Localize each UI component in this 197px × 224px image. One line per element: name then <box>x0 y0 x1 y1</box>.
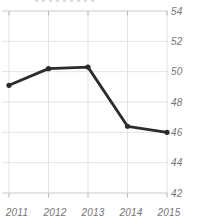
data-point <box>164 130 169 135</box>
x-tick-label: 2011 <box>5 207 28 218</box>
x-tick-label: 2013 <box>80 207 104 218</box>
x-tick-label: 2012 <box>42 207 66 218</box>
y-tick-label: 52 <box>171 36 183 47</box>
x-tick-label: 2014 <box>118 207 142 218</box>
data-point <box>125 124 130 129</box>
y-tick-label: 54 <box>171 6 183 17</box>
chart-panel: 5452504846444220112012201320142015 <box>0 0 197 224</box>
y-tick-label: 42 <box>171 188 183 199</box>
x-tick-label: 2015 <box>156 207 180 218</box>
line-chart: 5452504846444220112012201320142015 <box>0 0 197 224</box>
data-point <box>46 66 51 71</box>
y-tick-label: 44 <box>171 157 183 168</box>
y-tick-label: 48 <box>171 97 183 108</box>
y-tick-label: 46 <box>171 127 183 138</box>
data-point <box>85 65 90 70</box>
y-tick-label: 50 <box>171 66 183 77</box>
data-point <box>6 83 11 88</box>
